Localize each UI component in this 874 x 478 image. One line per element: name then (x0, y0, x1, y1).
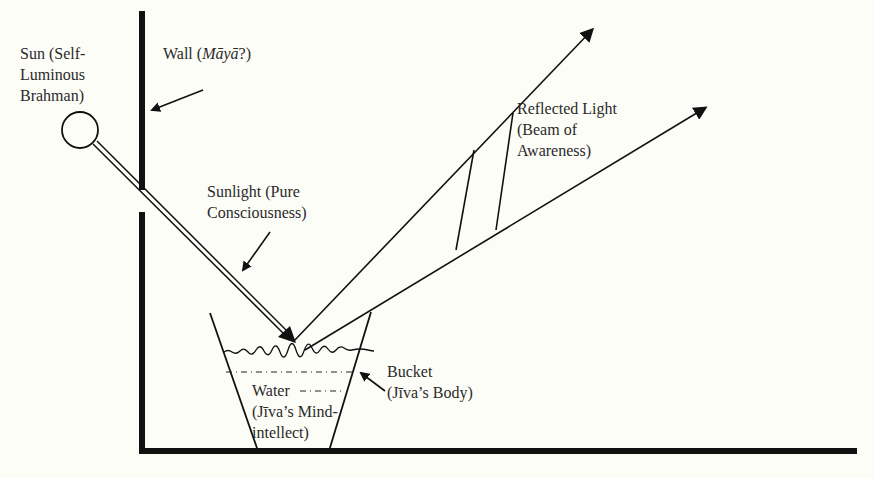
sun-label-line3: Brahman) (20, 85, 85, 106)
bucket-label-line2: (Jīva’s Body) (387, 382, 473, 403)
wall-label-prefix: Wall ( (163, 45, 202, 62)
reflected-light-label-line3: Awareness) (517, 140, 617, 161)
wall-pointer-arrow (152, 90, 203, 110)
reflected-beam-upper (293, 30, 592, 342)
sunlight-arrowhead-icon (278, 326, 296, 343)
water-surface (224, 344, 374, 358)
sunlight-beam (93, 141, 296, 343)
sun-label: Sun (Self- Luminous Brahman) (20, 43, 85, 106)
water-label-line2: (Jīva’s Mind- (252, 401, 338, 422)
reflected-beam-lower (305, 108, 705, 350)
wall-label-suffix: ?) (239, 45, 251, 62)
diagram-canvas (0, 0, 874, 478)
sun-label-line2: Luminous (20, 64, 85, 85)
bucket-label-line1: Bucket (387, 361, 473, 382)
sun-icon (62, 112, 98, 148)
water-label-line3: intellect) (252, 422, 338, 443)
sun-label-line1: Sun (Self- (20, 43, 85, 64)
water-label-line1: Water (252, 380, 338, 401)
wall-label-italic: Māyā (202, 45, 238, 62)
beam-connector-2 (496, 113, 513, 230)
sunlight-label-line1: Sunlight (Pure (207, 181, 307, 202)
water-label: Water (Jīva’s Mind- intellect) (252, 380, 338, 443)
sunlight-pointer-arrow (243, 232, 270, 270)
sunlight-label-line2: Consciousness) (207, 202, 307, 223)
beam-connector-1 (456, 150, 474, 250)
reflected-light-label-line1: Reflected Light (517, 98, 617, 119)
bucket-label: Bucket (Jīva’s Body) (387, 361, 473, 403)
reflected-light-label-line2: (Beam of (517, 119, 617, 140)
reflected-light-label: Reflected Light (Beam of Awareness) (517, 98, 617, 161)
wall-label: Wall (Māyā?) (163, 43, 251, 64)
sunlight-label: Sunlight (Pure Consciousness) (207, 181, 307, 223)
bucket-pointer-arrow (361, 373, 385, 391)
